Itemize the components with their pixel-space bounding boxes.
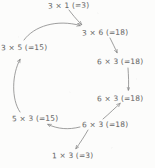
node-right-second: 6 × 3 (=18) [97,94,143,104]
edge-right3-to-bottom [76,130,88,149]
edge-upright-to-right1 [110,38,117,53]
edge-upleft-to-upright [24,23,80,40]
node-right-first: 6 × 3 (=18) [97,57,143,66]
node-right-third: 6 × 3 (=18) [82,120,128,129]
edge-right1-to-right2 [128,68,129,90]
node-top: 3 × 1 (=3) [48,1,89,11]
node-upper-left: 3 × 5 (=15) [1,43,47,52]
edge-right3-to-right2 [103,104,120,120]
multiplication-cycle-diagram: 3 × 1 (=3) 3 × 6 (=18) 6 × 3 (=18) 6 × 3… [0,0,155,168]
node-lower-left: 5 × 3 (=15) [12,114,58,124]
arrow-layer [0,0,155,168]
edge-right3-to-lowleft [48,125,80,129]
edge-top-to-upright [69,10,82,25]
edge-lowleft-to-upleft [14,60,20,113]
node-bottom: 1 × 3 (=3) [52,151,93,160]
node-upper-right: 3 × 6 (=18) [82,28,128,38]
